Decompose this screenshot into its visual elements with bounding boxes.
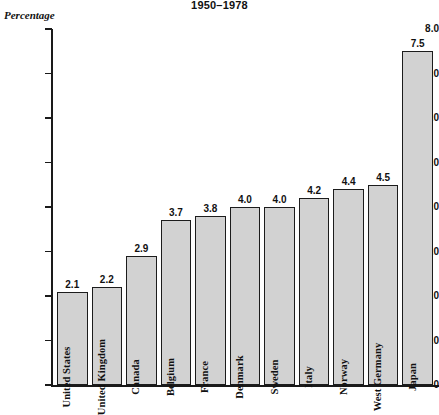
bar-value-label: 2.1 <box>57 279 88 290</box>
bar-france[interactable]: France <box>195 216 226 385</box>
bar-category-label: United States <box>61 346 72 407</box>
bar-united-kingdom[interactable]: United Kingdom <box>92 287 123 385</box>
bar-category-label: Sweden <box>269 359 280 394</box>
bar-group: West Germany4.5 <box>368 184 399 385</box>
bar-group: United States2.1 <box>57 291 88 385</box>
bar-category-label: Japan <box>407 363 418 391</box>
bar-group: Sweden4.0 <box>264 206 295 385</box>
bar-group: France3.8 <box>195 215 226 385</box>
bar-group: Belgium3.7 <box>161 219 192 385</box>
bar-value-label: 4.4 <box>333 176 364 187</box>
bar-canada[interactable]: Canada <box>126 256 157 385</box>
bar-denmark[interactable]: Denmark <box>230 207 261 385</box>
bar-group: Canada2.9 <box>126 255 157 385</box>
bar-sweden[interactable]: Sweden <box>264 207 295 385</box>
bar-japan[interactable]: Japan <box>402 51 433 385</box>
bar-category-label: Norway <box>338 359 349 395</box>
bar-italy[interactable]: Italy <box>299 198 330 385</box>
bar-value-label: 2.2 <box>92 274 123 285</box>
bar-group: United Kingdom2.2 <box>92 286 123 385</box>
bar-value-label: 3.7 <box>161 207 192 218</box>
bar-value-label: 2.9 <box>126 243 157 254</box>
bar-value-label: 7.5 <box>402 38 433 49</box>
bar-category-label: United Kingdom <box>96 339 107 415</box>
bar-value-label: 3.8 <box>195 203 226 214</box>
bar-category-label: Italy <box>303 366 314 388</box>
bar-value-label: 4.0 <box>230 194 261 205</box>
bar-category-label: France <box>199 361 210 393</box>
bar-category-label: Belgium <box>165 358 176 396</box>
bar-united-states[interactable]: United States <box>57 292 88 385</box>
bar-group: Norway4.4 <box>333 188 364 385</box>
bar-value-label: 4.5 <box>368 172 399 183</box>
bar-belgium[interactable]: Belgium <box>161 220 192 385</box>
bar-category-label: Denmark <box>234 355 245 398</box>
bar-group: Japan7.5 <box>402 50 433 385</box>
bar-norway[interactable]: Norway <box>333 189 364 385</box>
bar-category-label: Canada <box>130 359 141 395</box>
bar-group: Denmark4.0 <box>230 206 261 385</box>
bar-value-label: 4.2 <box>299 185 330 196</box>
bar-category-label: West Germany <box>372 343 383 412</box>
bar-value-label: 4.0 <box>264 194 295 205</box>
bar-west-germany[interactable]: West Germany <box>368 185 399 385</box>
bar-group: Italy4.2 <box>299 197 330 385</box>
